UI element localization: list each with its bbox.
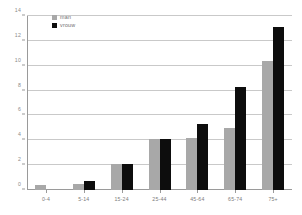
legend-label-vrouw: vrouw (60, 22, 75, 28)
bar-man (186, 138, 197, 190)
legend-item-man: man (52, 14, 75, 20)
legend-swatch-man-icon (52, 15, 57, 20)
x-axis-tick-label: 45-64 (178, 196, 216, 202)
bar-vrouw (273, 27, 284, 190)
bar-vrouw (84, 181, 95, 190)
y-axis-tick-mark (22, 114, 25, 115)
bar-group (254, 16, 292, 190)
x-axis-tick-label: 0-4 (27, 196, 65, 202)
x-axis-tick-label: 5-14 (65, 196, 103, 202)
y-axis-tick-label: 0 (18, 181, 21, 187)
bar-man (149, 139, 160, 190)
bar-vrouw (197, 124, 208, 190)
y-axis-tick-mark (22, 189, 25, 190)
y-axis-tick-mark (22, 15, 25, 16)
bar-group (103, 16, 141, 190)
bar-vrouw (122, 164, 133, 190)
chart-legend: man vrouw (52, 14, 75, 28)
y-axis-tick-label: 14 (15, 7, 21, 13)
y-axis-tick-mark (22, 39, 25, 40)
legend-item-vrouw: vrouw (52, 22, 75, 28)
y-axis-tick-label: 8 (18, 82, 21, 88)
bar-vrouw (160, 139, 171, 190)
bar-man (224, 128, 235, 190)
bar-group (141, 16, 179, 190)
x-axis-tick-label: 75+ (254, 196, 292, 202)
y-axis-tick-mark (22, 89, 25, 90)
y-axis-tick-mark (22, 139, 25, 140)
y-axis-tick-label: 2 (18, 156, 21, 162)
legend-swatch-vrouw-icon (52, 23, 57, 28)
plot-area (27, 16, 292, 190)
bar-group (65, 16, 103, 190)
x-axis-tick-label: 25-44 (141, 196, 179, 202)
bar-group (27, 16, 65, 190)
bar-groups (27, 16, 292, 190)
bar-man (111, 164, 122, 190)
y-axis-tick-mark (22, 164, 25, 165)
y-axis-tick-label: 4 (18, 131, 21, 137)
y-axis-tick-label: 6 (18, 106, 21, 112)
bar-group (216, 16, 254, 190)
bar-vrouw (235, 87, 246, 190)
y-axis-tick-mark (22, 64, 25, 65)
y-axis-tick-label: 10 (15, 57, 21, 63)
legend-label-man: man (60, 14, 71, 20)
bar-man (262, 61, 273, 190)
x-axis-labels: 0-45-1415-2425-4445-6465-7475+ (27, 196, 292, 202)
x-axis-tick-label: 15-24 (103, 196, 141, 202)
x-axis-tick-label: 65-74 (216, 196, 254, 202)
bar-chart: 02468101214 0-45-1415-2425-4445-6465-747… (0, 0, 302, 215)
bar-group (178, 16, 216, 190)
y-axis: 02468101214 (0, 16, 25, 190)
y-axis-tick-label: 12 (15, 32, 21, 38)
